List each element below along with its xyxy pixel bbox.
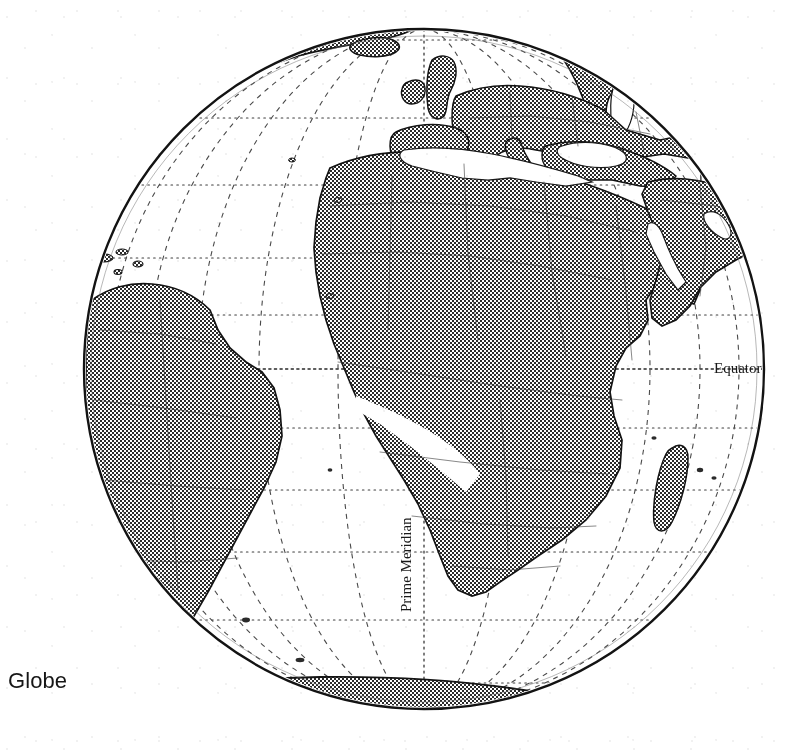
prime-meridian-label: Prime Meridian [398, 517, 414, 612]
island-south-georgia [296, 658, 305, 662]
island-azores [289, 158, 296, 162]
island-st-helena [328, 468, 333, 472]
island-canary [334, 198, 342, 203]
figure-caption: Globe [8, 668, 67, 694]
land-ireland [401, 80, 425, 104]
island-speck-3 [133, 261, 143, 267]
island-speck-4 [114, 270, 122, 275]
island-cape-verde [326, 294, 334, 299]
island-mascarene-2 [711, 476, 716, 480]
globe-figure: Equator Prime Meridian Globe [0, 0, 785, 752]
island-comoros [651, 436, 656, 440]
island-falklands [242, 618, 250, 623]
island-mascarene-1 [697, 468, 703, 472]
land-svalbard [532, 7, 563, 20]
equator-label: Equator [714, 360, 761, 376]
globe-illustration: Equator Prime Meridian [0, 0, 785, 752]
island-speck-2 [116, 249, 128, 255]
